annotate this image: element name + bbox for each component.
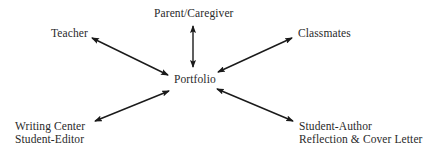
node-label-line-2: Reflection & Cover Letter [299,133,423,146]
node-teacher: Teacher [51,27,88,40]
node-writing-center: Writing Center Student-Editor [15,120,85,146]
node-label-line-1: Student-Author [299,120,423,133]
node-parent-caregiver: Parent/Caregiver [154,7,234,20]
portfolio-diagram: Parent/Caregiver Teacher Classmates Port… [0,0,445,156]
node-label: Classmates [298,27,351,40]
center-label: Portfolio [174,73,216,86]
node-label: Parent/Caregiver [154,7,234,20]
arrow-student-author [217,89,293,121]
arrow-classmates [218,38,292,72]
node-label-line-1: Writing Center [15,120,85,133]
arrow-teacher [92,38,168,75]
center-node-portfolio: Portfolio [174,73,216,86]
node-label: Teacher [51,27,88,40]
node-classmates: Classmates [298,27,351,40]
node-label-line-2: Student-Editor [15,133,85,146]
arrow-writing-center [95,91,169,121]
node-student-author: Student-Author Reflection & Cover Letter [299,120,423,146]
